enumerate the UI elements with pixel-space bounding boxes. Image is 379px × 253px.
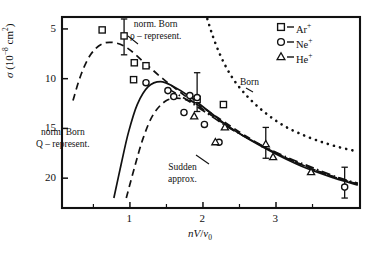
legend-item-ar: Ar+: [296, 21, 312, 36]
curve-norm-born-rho-represent: [73, 42, 358, 184]
annotation-norm-born-rho-line1: norm. Born: [130, 20, 181, 30]
annotation-sudden-line2: approx.: [168, 175, 197, 185]
y-axis-title: σ (10−8 cm2): [2, 24, 15, 78]
data-point-ne-1: [165, 88, 171, 94]
legend-marker-ne: [278, 39, 285, 46]
x-tick-label-2: 2: [199, 213, 205, 224]
data-point-ne-6: [201, 121, 207, 127]
annotation-norm-born-q-line1: norm. Born: [36, 128, 90, 138]
y-axis-paren-open: (: [3, 66, 15, 70]
y-axis-paren-close: ): [3, 24, 15, 28]
legend-label-ar: Ar: [296, 24, 307, 35]
data-point-ar-2: [131, 60, 137, 66]
data-point-ar-1: [121, 33, 127, 39]
y-axis-exponent: −8: [1, 47, 10, 55]
legend-charge-ar: +: [307, 21, 311, 30]
legend-marker-he: [277, 53, 285, 60]
legend-label-he: He: [296, 54, 308, 65]
curves-group: [73, 19, 358, 198]
annotation-norm-born-q-line2: Q – represent.: [36, 140, 90, 150]
y-axis-unit-exponent: 2: [1, 27, 10, 31]
x-tick-label-1: 1: [126, 213, 132, 224]
annotation-born: Born: [240, 78, 259, 88]
x-axis-title: nV/v0: [188, 228, 212, 242]
data-point-ar-0: [99, 27, 105, 33]
x-tick-label-3: 3: [273, 213, 279, 224]
legend-charge-ne: +: [308, 36, 312, 45]
legend-charge-he: +: [308, 51, 312, 60]
data-point-ar-4: [130, 77, 136, 83]
legend: Ar+ Ne+ He+: [296, 21, 312, 66]
legend-item-he: He+: [296, 51, 312, 66]
leader-line-1: [246, 88, 253, 92]
y-tick-label-20: 20: [36, 172, 56, 183]
legend-item-ne: Ne+: [296, 36, 312, 51]
leader-line-2: [196, 155, 209, 164]
data-point-ne-4: [194, 94, 200, 100]
data-point-ne-2: [171, 93, 177, 99]
data-point-ne-0: [143, 80, 149, 86]
annotation-norm-born-rho-line2: ρ – represent.: [130, 32, 181, 42]
y-tick-label-5: 5: [36, 23, 56, 34]
y-axis-unit: cm: [3, 31, 15, 44]
curve-lower-arc: [126, 98, 358, 198]
y-tick-label-10: 10: [36, 73, 56, 84]
curve-norm-born-q-represent: [114, 82, 358, 198]
legend-markers: [277, 24, 294, 60]
data-point-ar-6: [220, 101, 226, 107]
data-point-he-3: [262, 140, 269, 146]
data-point-ne-5: [181, 109, 187, 115]
data-point-ar-3: [143, 63, 149, 69]
annotation-norm-born-rho: norm. Born ρ – represent.: [130, 20, 181, 41]
annotation-sudden-line1: Sudden: [168, 163, 197, 173]
y-axis-symbol: σ: [3, 73, 15, 78]
annotation-sudden-approx: Sudden approx.: [168, 163, 197, 184]
annotation-norm-born-q: norm. Born Q – represent.: [36, 128, 90, 149]
legend-label-ne: Ne: [296, 39, 308, 50]
annotation-born-line1: Born: [240, 78, 259, 88]
y-axis-base: 10: [3, 55, 15, 66]
x-axis-subscript: 0: [208, 233, 212, 242]
legend-marker-ar: [278, 24, 285, 31]
data-point-he-0: [191, 113, 198, 119]
data-point-ne-3: [187, 92, 193, 98]
figure-container: σ (10−8 cm2) nV/v0 1232015105 norm. Born…: [0, 0, 379, 253]
data-point-ne-8: [342, 184, 348, 190]
